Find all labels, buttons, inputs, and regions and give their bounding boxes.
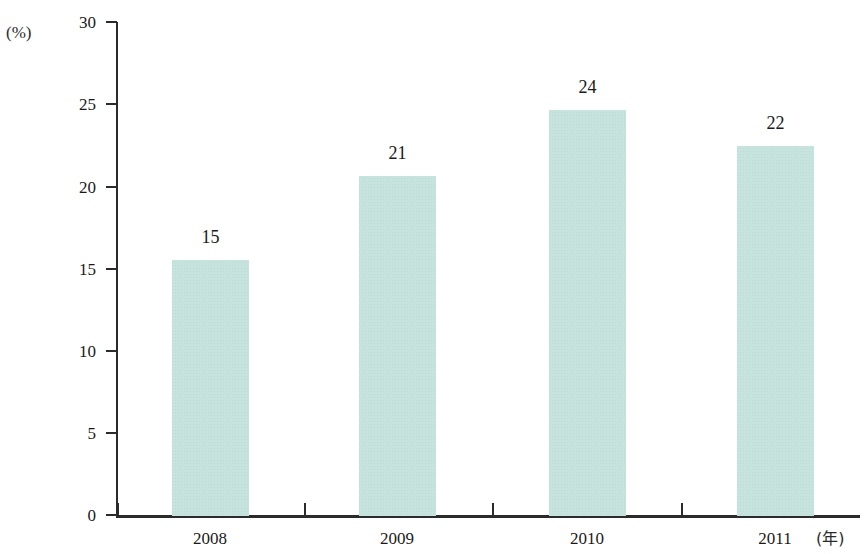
bar-texture <box>359 176 436 516</box>
y-tick-mark <box>106 21 117 23</box>
y-tick-mark <box>106 432 117 434</box>
y-tick-label: 15 <box>36 261 96 278</box>
bar-value-label-2011: 22 <box>716 114 836 132</box>
y-tick-label: 25 <box>36 96 96 113</box>
bar-value-label-2010: 24 <box>528 78 648 96</box>
bar-texture <box>172 260 249 516</box>
bar-value-label-2009: 21 <box>338 144 458 162</box>
y-tick-mark <box>106 103 117 105</box>
bar-2008 <box>172 260 249 516</box>
bar-texture <box>549 110 626 516</box>
y-tick-mark <box>106 350 117 352</box>
x-tick-label-2010: 2010 <box>527 530 647 547</box>
bar-2010 <box>549 110 626 516</box>
x-tick-mark <box>492 503 494 516</box>
y-tick-mark <box>106 268 117 270</box>
bar-chart: (%) (年) 302520151050 2008200920102011 15… <box>0 0 868 554</box>
y-tick-mark <box>106 514 117 516</box>
bar-2011 <box>737 146 814 516</box>
x-tick-mark <box>117 503 119 516</box>
y-tick-mark <box>106 186 117 188</box>
x-tick-mark <box>304 503 306 516</box>
x-tick-label-2008: 2008 <box>150 530 270 547</box>
x-tick-label-2011: 2011 <box>715 530 835 547</box>
y-tick-label: 5 <box>36 425 96 442</box>
bar-texture <box>737 146 814 516</box>
y-tick-label: 30 <box>36 14 96 31</box>
bar-value-label-2008: 15 <box>151 228 271 246</box>
y-axis-unit-label: (%) <box>6 24 31 41</box>
y-tick-label: 0 <box>36 507 96 524</box>
x-tick-mark <box>681 503 683 516</box>
x-tick-label-2009: 2009 <box>337 530 457 547</box>
y-tick-label: 10 <box>36 343 96 360</box>
bar-2009 <box>359 176 436 516</box>
y-tick-label: 20 <box>36 179 96 196</box>
